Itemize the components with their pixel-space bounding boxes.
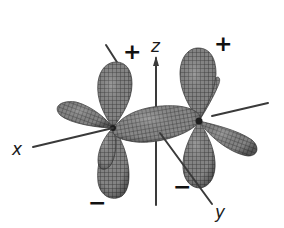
central-bonding-lobe xyxy=(113,106,201,143)
x-axis-right xyxy=(212,103,268,116)
phase-sign-left-upper: + xyxy=(123,39,141,64)
phase-sign-right-upper: + xyxy=(214,31,232,56)
y-axis-label: y xyxy=(214,202,226,222)
right-nucleus xyxy=(196,118,203,125)
phase-sign-right-lower: − xyxy=(173,174,191,199)
z-axis-label: z xyxy=(150,36,161,56)
x-axis-left xyxy=(33,128,113,147)
phase-sign-left-lower: − xyxy=(88,190,106,215)
z-axis-arrowhead xyxy=(153,56,159,66)
x-axis-label: x xyxy=(11,139,23,159)
orbital-diagram: z x y + + − − xyxy=(0,0,284,228)
